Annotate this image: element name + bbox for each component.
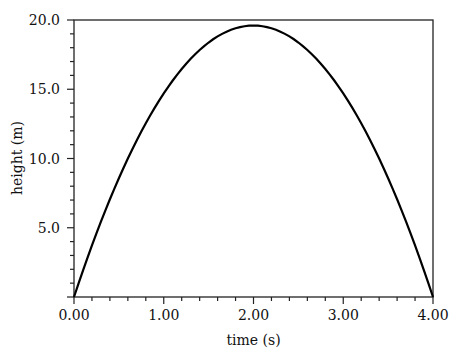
chart: 0.001.002.003.004.00 5.010.015.020.0 tim… (0, 0, 457, 359)
height-curve (74, 26, 433, 297)
y-tick-label: 20.0 (29, 12, 60, 28)
y-tick-label: 5.0 (38, 220, 60, 236)
y-tick-label: 15.0 (29, 81, 60, 97)
y-tick-label: 10.0 (29, 151, 60, 167)
y-axis-label: height (m) (9, 121, 25, 195)
x-tick-label: 4.00 (417, 307, 448, 323)
axis-ticks (67, 20, 433, 304)
x-tick-label: 0.00 (58, 307, 89, 323)
x-tick-label: 1.00 (148, 307, 179, 323)
x-tick-labels: 0.001.002.003.004.00 (58, 307, 448, 323)
x-tick-label: 2.00 (238, 307, 269, 323)
x-axis-label: time (s) (226, 332, 280, 348)
y-tick-labels: 5.010.015.020.0 (29, 12, 60, 236)
x-tick-label: 3.00 (328, 307, 359, 323)
